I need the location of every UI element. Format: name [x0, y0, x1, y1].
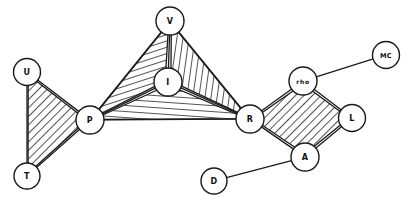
edge-p-r [103, 119, 237, 120]
node-label-a: A [302, 153, 309, 162]
node-rho[interactable]: rho [289, 67, 317, 95]
nodes-layer: UTPVIRrhoMCLAD [14, 7, 400, 194]
node-label-u: U [24, 68, 31, 77]
node-label-rho: rho [296, 78, 309, 85]
node-label-r: R [247, 115, 254, 124]
graph-canvas: UTPVIRrhoMCLAD [0, 0, 411, 202]
node-label-i: I [166, 78, 169, 87]
node-p[interactable]: P [76, 106, 104, 134]
edge-a-d [226, 160, 293, 178]
node-u[interactable]: U [14, 59, 41, 86]
node-label-l: L [349, 114, 355, 123]
node-i[interactable]: I [154, 68, 182, 96]
node-label-mc: MC [380, 52, 392, 60]
node-v[interactable]: V [156, 7, 184, 35]
node-l[interactable]: L [339, 105, 366, 132]
node-label-d: D [210, 177, 217, 186]
node-t[interactable]: T [14, 163, 40, 189]
node-r[interactable]: R [236, 105, 264, 133]
node-d[interactable]: D [201, 168, 227, 194]
node-a[interactable]: A [291, 143, 319, 171]
node-label-p: P [87, 116, 93, 125]
edge-rho-mc [315, 59, 374, 77]
node-label-t: T [24, 172, 30, 181]
node-mc[interactable]: MC [373, 42, 400, 69]
edge-v-i [168, 34, 169, 69]
diagram-root: UTPVIRrhoMCLAD [0, 0, 411, 202]
node-label-v: V [167, 17, 174, 26]
